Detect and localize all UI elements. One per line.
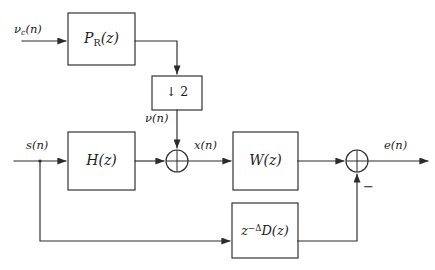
block-label-downsampler: ↓ 2 bbox=[152, 86, 202, 99]
signal-label-nu-n: ν(n) bbox=[145, 113, 168, 125]
nu-base: ν bbox=[145, 111, 152, 125]
nu-c-base: ν bbox=[14, 22, 21, 36]
p-r-suffix: (z) bbox=[101, 30, 119, 46]
wire-delay-to-sum-right bbox=[298, 174, 357, 241]
nu-c-tail: (n) bbox=[25, 22, 41, 36]
signal-label-e-n: e(n) bbox=[384, 140, 407, 152]
block-diagram-figure: PR(z) ↓ 2 H(z) W(z) z−ΔD(z) νc(n) ν(n) s… bbox=[0, 0, 435, 270]
delay-tail: D(z) bbox=[261, 223, 288, 238]
sum-node-left bbox=[166, 150, 188, 172]
sign-label-minus: − bbox=[363, 180, 374, 193]
branch-node-s bbox=[38, 159, 41, 162]
signal-label-x-n: x(n) bbox=[194, 140, 217, 152]
diagram-canvas bbox=[0, 0, 435, 270]
delay-base: z bbox=[241, 223, 248, 238]
signal-label-nu-c-n: νc(n) bbox=[14, 24, 42, 37]
sum-node-right bbox=[346, 150, 368, 172]
block-label-delay-d-z: z−ΔD(z) bbox=[232, 224, 298, 237]
block-label-w-z: W(z) bbox=[233, 153, 298, 167]
nu-tail: (n) bbox=[152, 111, 168, 125]
wire-p-r-to-downsampler bbox=[135, 41, 177, 74]
delay-exponent: −Δ bbox=[248, 223, 261, 233]
signal-label-s-n: s(n) bbox=[26, 140, 48, 152]
p-r-subscript: R bbox=[93, 37, 100, 48]
block-label-p-r: PR(z) bbox=[68, 31, 135, 47]
block-label-h-z: H(z) bbox=[68, 153, 135, 167]
